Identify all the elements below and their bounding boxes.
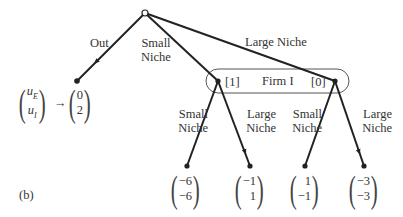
terminal-node [361,163,366,168]
edge-label-left-small: SmallNiche [168,107,208,135]
figure-label: (b) [19,188,34,202]
edge-label-right-small: SmallNiche [282,107,322,135]
root-node [142,10,148,16]
edge-out [77,13,145,81]
edge-label-small-niche: SmallNiche [136,36,176,64]
payoff-legend: ( uE uI ) [16,84,48,122]
belief-left: [1] [225,75,240,89]
payoff-small-small: ( −6−6 ) [168,170,203,208]
payoff-large-large: ( −3−3 ) [346,170,381,208]
payoff-small-large: ( −11 ) [232,170,267,208]
terminal-node [247,163,252,168]
belief-right: [0] [311,75,326,89]
terminal-node [302,163,307,168]
payoff-large-small: ( 1−1 ) [287,170,322,208]
firm-i-node-left [215,78,220,83]
arrow-icon: → [54,96,67,110]
edge-label-large-niche: Large Niche [245,35,307,49]
edge-label-left-large: LargeNiche [236,107,276,135]
payoff-out: ( 02 ) [66,84,94,122]
firm-i-node-right [332,78,337,83]
information-set-label: Firm I [262,74,294,88]
edge-label-out: Out [90,36,109,50]
edge-label-right-large: LargeNiche [352,107,392,135]
terminal-node [184,163,189,168]
